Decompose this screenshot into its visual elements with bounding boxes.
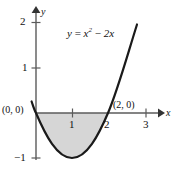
equation-minus: − — [95, 27, 101, 39]
point-label-root: (2, 0) — [113, 100, 135, 110]
y-tick-label-2: 2 — [20, 16, 26, 27]
equation-lhs: y — [67, 27, 72, 39]
equation-equals: = — [75, 27, 81, 39]
x-tick-label-1: 1 — [69, 119, 75, 130]
graph-canvas — [0, 0, 175, 169]
equation-label: y = x2 − 2x — [67, 27, 114, 39]
y-axis-label: y — [41, 7, 45, 17]
equation-exponent: 2 — [89, 26, 93, 34]
y-tick-label-minus-1: −1 — [14, 152, 26, 163]
y-axis-arrowhead — [32, 6, 41, 13]
x-tick-label-3: 3 — [143, 119, 149, 130]
x-axis-arrowhead — [158, 109, 165, 118]
y-tick-label-1: 1 — [22, 62, 28, 73]
figure-graph-parabola: y x 2 1 −1 1 2 3 (0, 0) (2, 0) y = x2 − … — [0, 0, 175, 169]
x-axis-label: x — [166, 108, 170, 118]
x-tick-label-2: 2 — [104, 119, 110, 130]
equation-term: 2x — [104, 27, 114, 39]
point-label-origin: (0, 0) — [2, 105, 24, 115]
